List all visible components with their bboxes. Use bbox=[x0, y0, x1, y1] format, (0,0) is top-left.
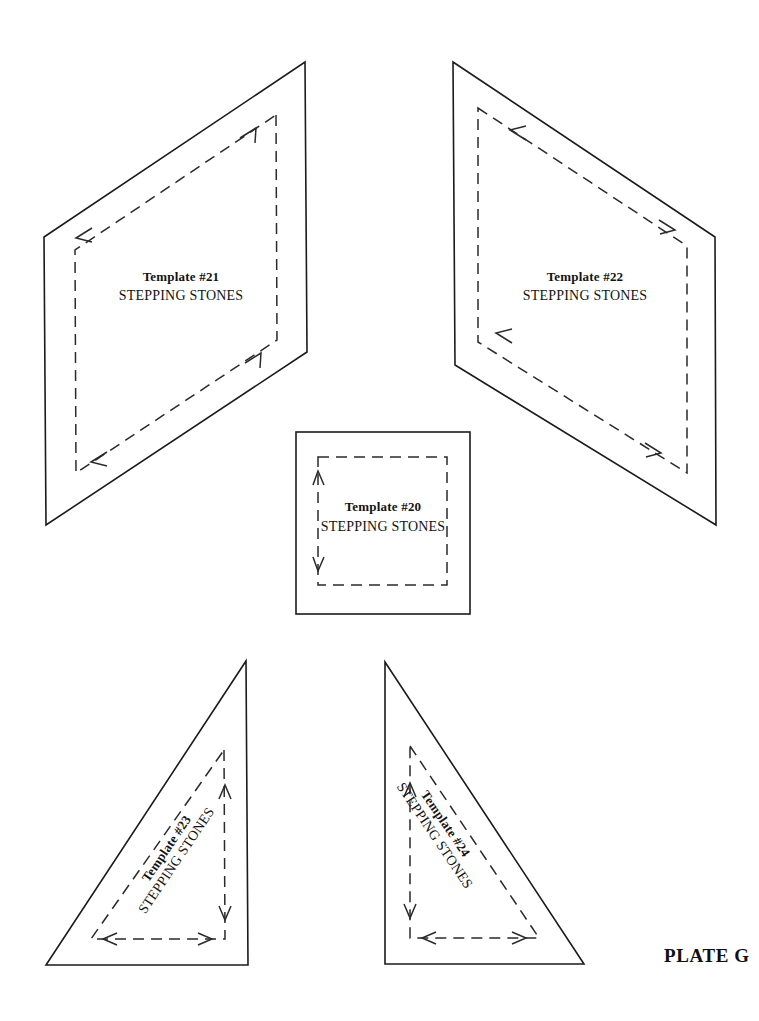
template-21-group: Template #21 STEPPING STONES bbox=[44, 62, 307, 525]
template-20-title: Template #20 bbox=[345, 499, 422, 514]
template-23-cutting-line bbox=[46, 661, 248, 965]
template-20-pattern-name: STEPPING STONES bbox=[321, 519, 446, 534]
template-21-arrow-lower-left bbox=[91, 452, 107, 466]
plate-page: Template #21 STEPPING STONES Template #2… bbox=[0, 0, 759, 1021]
template-22-pattern-name: STEPPING STONES bbox=[523, 288, 648, 303]
template-21-title: Template #21 bbox=[143, 269, 220, 284]
template-21-pattern-name: STEPPING STONES bbox=[119, 288, 244, 303]
template-21-arrow-top bbox=[240, 128, 256, 143]
template-20-group: Template #20 STEPPING STONES bbox=[296, 432, 470, 614]
template-24-group: Template #24 STEPPING STONES bbox=[385, 662, 584, 964]
template-plate-drawing: Template #21 STEPPING STONES Template #2… bbox=[0, 0, 759, 1021]
plate-label: PLATE G bbox=[664, 945, 750, 966]
template-23-arrow-up bbox=[219, 785, 231, 799]
template-23-group: Template #23 STEPPING STONES bbox=[46, 661, 248, 965]
template-24-seam-line bbox=[410, 746, 539, 938]
template-22-arrow-top bbox=[510, 126, 526, 140]
template-22-arrow-right bbox=[659, 220, 675, 234]
template-22-arrow-bottom bbox=[496, 329, 512, 343]
template-23-seam-line bbox=[91, 750, 225, 939]
template-22-group: Template #22 STEPPING STONES bbox=[453, 62, 716, 525]
template-22-title: Template #22 bbox=[547, 269, 624, 284]
